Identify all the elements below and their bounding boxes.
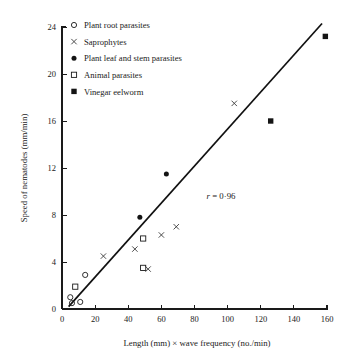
legend-entry: Plant root parasites (71, 20, 150, 30)
series-saprophytes (101, 101, 237, 272)
legend-entry: Vinegar eelworm (71, 87, 143, 97)
data-point (268, 118, 273, 123)
legend-entry: Plant leaf and stem parasites (72, 53, 183, 63)
y-tick-label: 4 (52, 257, 57, 267)
x-tick-label: 120 (254, 314, 267, 324)
y-axis-title: Speed of nematodes (mm/min) (19, 114, 29, 223)
data-point (232, 101, 237, 106)
data-point (174, 224, 179, 229)
x-tick-label: 140 (288, 314, 301, 324)
x-axis-title: Length (mm) × wave frequency (no./min) (123, 338, 270, 348)
trend-line (69, 23, 322, 306)
y-tick-label: 24 (48, 22, 57, 32)
scatter-plot-figure: 04812162024 020406080100120140160 Length… (0, 0, 350, 359)
plot-canvas: 04812162024 020406080100120140160 Length… (0, 0, 350, 359)
filled-square-marker (71, 89, 76, 94)
x-tick-label: 100 (221, 314, 234, 324)
y-axis-ticks (62, 27, 67, 262)
y-tick-label: 0 (52, 304, 56, 314)
correlation-annotation: r = 0·96 (207, 191, 237, 201)
data-point (141, 265, 146, 270)
x-tick-label: 160 (321, 314, 334, 324)
x-tick-label: 20 (91, 314, 100, 324)
regression-line (69, 23, 322, 306)
data-point (73, 284, 78, 289)
y-tick-label: 20 (48, 69, 57, 79)
legend-label: Plant root parasites (84, 20, 151, 30)
data-point (164, 171, 169, 176)
data-point (141, 236, 146, 241)
legend-label: Vinegar eelworm (84, 87, 144, 97)
annotation-value: = 0·96 (210, 191, 236, 201)
legend-label: Plant leaf and stem parasites (84, 53, 182, 63)
open-square-marker (71, 72, 76, 77)
data-point (323, 34, 328, 39)
x-tick-label: 0 (60, 314, 64, 324)
x-tick-label: 60 (157, 314, 166, 324)
x-tick-label: 80 (190, 314, 199, 324)
y-tick-label: 8 (52, 210, 56, 220)
y-tick-label: 12 (48, 163, 57, 173)
x-tick-label: 40 (124, 314, 133, 324)
legend-label: Animal parasites (84, 70, 143, 80)
axes: 04812162024 020406080100120140160 (48, 22, 334, 324)
data-point (145, 266, 150, 271)
series-vinegar-eelworm (268, 34, 328, 124)
data-point (78, 299, 83, 304)
cross-marker (71, 39, 76, 44)
series-animal-parasites (73, 236, 146, 289)
legend-label: Saprophytes (84, 37, 127, 47)
data-point (68, 295, 73, 300)
data-point (83, 272, 88, 277)
data-point (137, 215, 142, 220)
legend: Plant root parasitesSaprophytesPlant lea… (71, 20, 182, 96)
open-circle-marker (71, 22, 76, 27)
filled-circle-marker (72, 56, 77, 61)
data-point (159, 232, 164, 237)
annotations-layer: r = 0·96 (207, 191, 237, 201)
y-tick-label: 16 (48, 116, 57, 126)
y-axis-tick-labels: 04812162024 (48, 22, 57, 314)
data-point (101, 253, 106, 258)
x-axis-ticks (95, 305, 327, 310)
legend-entry: Animal parasites (71, 70, 142, 80)
x-axis-tick-labels: 020406080100120140160 (60, 314, 334, 324)
legend-entry: Saprophytes (71, 37, 127, 47)
data-point (132, 246, 137, 251)
